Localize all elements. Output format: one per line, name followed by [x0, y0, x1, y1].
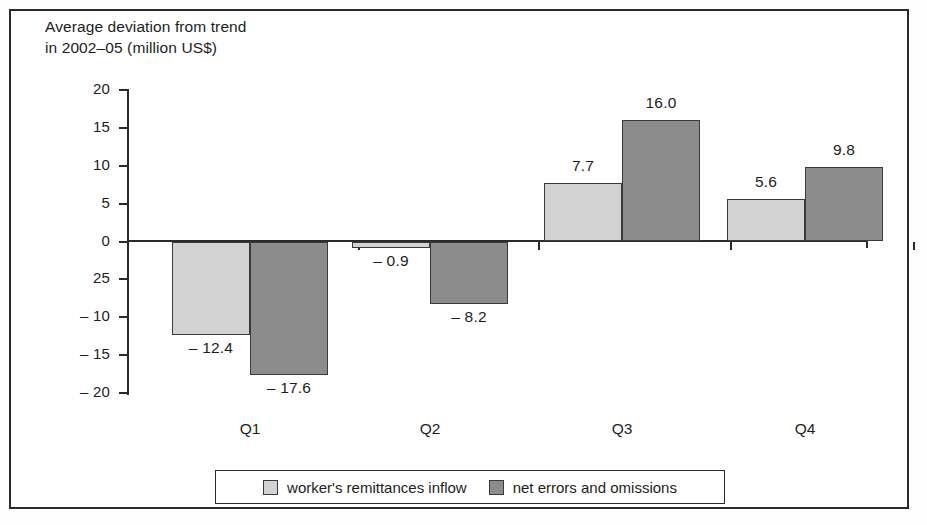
x-axis-label: Q4 — [765, 420, 845, 438]
bar — [727, 199, 805, 241]
bar-value-label: – 17.6 — [244, 379, 334, 397]
bar — [430, 242, 508, 304]
x-axis-label: Q1 — [210, 420, 290, 438]
y-axis-tick-label: 10 — [52, 156, 110, 173]
y-axis-tick-label: 20 — [52, 80, 110, 97]
bar-value-label: – 8.2 — [424, 308, 514, 326]
y-axis-tick — [119, 354, 128, 356]
y-axis-tick-label: – 15 — [52, 345, 110, 362]
bar — [352, 242, 430, 249]
y-axis-tick-label: 0 — [52, 232, 110, 249]
legend-item-label: net errors and omissions — [513, 479, 677, 496]
bar — [172, 242, 250, 336]
chart-legend: worker's remittances inflownet errors an… — [215, 470, 725, 504]
x-axis-tick — [538, 242, 540, 250]
y-axis-tick — [119, 203, 128, 205]
y-axis-tick-label: 15 — [52, 118, 110, 135]
bar — [544, 183, 622, 241]
x-axis-tick — [730, 242, 732, 250]
legend-item-label: worker's remittances inflow — [287, 479, 467, 496]
x-axis-label: Q2 — [390, 420, 470, 438]
x-axis-label: Q3 — [582, 420, 662, 438]
y-axis-tick-label: – 10 — [52, 307, 110, 324]
bar-value-label: 9.8 — [799, 141, 889, 159]
y-axis-tick — [119, 241, 128, 243]
bar-value-label: 16.0 — [616, 94, 706, 112]
y-axis-tick — [119, 278, 128, 280]
bar-value-label: 5.6 — [721, 173, 811, 191]
y-axis-tick — [119, 127, 128, 129]
bar — [622, 120, 700, 241]
bar-value-label: 7.7 — [538, 157, 628, 175]
bar — [805, 167, 883, 241]
bar-value-label: – 0.9 — [346, 252, 436, 270]
y-axis-tick-label: 25 — [52, 269, 110, 286]
y-axis-tick — [119, 316, 128, 318]
y-axis-tick — [119, 392, 128, 394]
y-axis-tick — [119, 89, 128, 91]
legend-swatch-icon — [263, 480, 278, 495]
legend-item: net errors and omissions — [489, 479, 677, 496]
legend-swatch-icon — [489, 480, 504, 495]
bar-value-label: – 12.4 — [166, 339, 256, 357]
plot-area: 2015105025– 10– 15– 20 – 12.4– 17.6– 0.9… — [0, 0, 927, 525]
figure: Average deviation from trend in 2002–05 … — [0, 0, 927, 525]
legend-item: worker's remittances inflow — [263, 479, 467, 496]
x-axis-tick — [913, 242, 915, 250]
bar — [250, 242, 328, 375]
y-axis-tick-label: – 20 — [52, 383, 110, 400]
y-axis-tick-label: 5 — [52, 194, 110, 211]
y-axis-tick — [119, 165, 128, 167]
